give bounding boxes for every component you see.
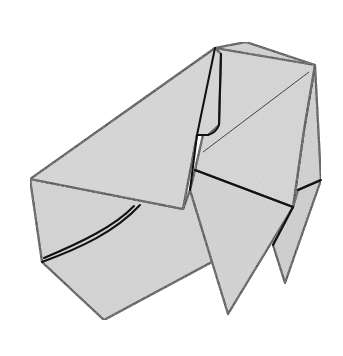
- origami-diagram: [0, 0, 343, 356]
- paper-faces: [30, 42, 321, 320]
